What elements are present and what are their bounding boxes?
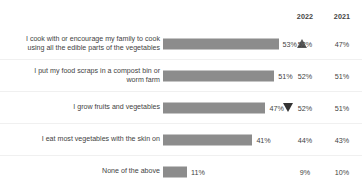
bar [163,166,187,177]
value-2021: 51% [329,103,355,112]
column-header-2021: 2021 [329,12,355,21]
row-content: I put my food scraps in a compost bin or… [0,60,362,91]
table-row: I eat most vegetables with the skin on41… [0,123,362,155]
bar-chart: 2022 2021 I cook with or encourage my fa… [0,0,362,189]
row-label: I grow fruits and vegetables [8,103,160,112]
row-label-line-2: using all the edible parts of the vegeta… [8,44,160,53]
bar-value-label: 41% [256,134,270,145]
column-header-2022: 2022 [292,12,318,21]
row-label: I put my food scraps in a compost bin or… [8,66,160,85]
row-label: I eat most vegetables with the skin on [8,135,160,144]
row-content: I eat most vegetables with the skin on41… [0,124,362,155]
bar [163,102,265,113]
value-2022: 52% [292,103,318,112]
row-label-line-1: None of the above [8,167,160,176]
row-content: I cook with or encourage my family to co… [0,28,362,59]
bar [163,134,252,145]
chart-rows: I cook with or encourage my family to co… [0,28,362,187]
value-2021: 51% [329,71,355,80]
value-2021: 10% [329,167,355,176]
table-row: I grow fruits and vegetables47%52%51% [0,91,362,123]
row-label-line-1: I cook with or encourage my family to co… [8,34,160,43]
table-row: I put my food scraps in a compost bin or… [0,59,362,91]
table-row: I cook with or encourage my family to co… [0,28,362,59]
row-content: None of the above11%9%10% [0,156,362,187]
bar [163,70,274,81]
bar-value-label: 47% [269,102,283,113]
bar [163,38,279,49]
bar-track: 11% [163,166,288,177]
row-label-line-1: I put my food scraps in a compost bin or [8,66,160,75]
value-2022: 44% [292,135,318,144]
row-label-line-1: I eat most vegetables with the skin on [8,135,160,144]
value-2022: 52% [292,39,318,48]
row-label: I cook with or encourage my family to co… [8,34,160,53]
value-2021: 43% [329,135,355,144]
bar-track: 53% [163,38,288,49]
column-header-row: 2022 2021 [0,12,362,26]
value-2022: 9% [292,167,318,176]
bar-track: 41% [163,134,288,145]
row-label-line-2: worm farm [8,76,160,85]
bar-track: 51% [163,70,288,81]
value-2021: 47% [329,39,355,48]
value-2022: 52% [292,71,318,80]
bar-value-label: 51% [278,70,292,81]
row-label: None of the above [8,167,160,176]
row-label-line-1: I grow fruits and vegetables [8,103,160,112]
bar-track: 47% [163,102,288,113]
bar-value-label: 11% [191,166,205,177]
row-content: I grow fruits and vegetables47%52%51% [0,92,362,123]
table-row: None of the above11%9%10% [0,155,362,187]
